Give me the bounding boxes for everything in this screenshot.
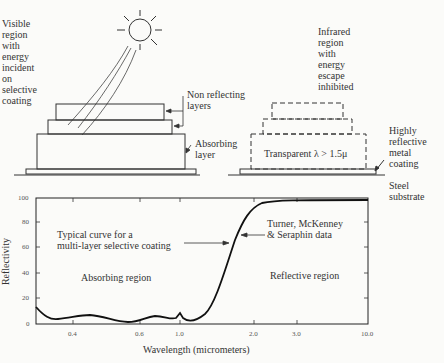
- absorbing-region-label: Absorbing region: [81, 272, 151, 283]
- metal-coating: [228, 160, 385, 175]
- x-tick-10.0: 10.0: [361, 330, 373, 338]
- x-tick-1.0: 1.0: [175, 330, 184, 338]
- light-rays: [68, 46, 136, 135]
- infrared-region-label: Infrared region with energy escape inhib…: [318, 26, 354, 92]
- non-reflecting-layers-label: Non reflecting layers: [187, 89, 245, 111]
- x-axis-label: Wavelength (micrometers): [143, 344, 250, 355]
- x-tick-3.0: 3.0: [292, 330, 301, 338]
- absorbing-layer-label: Absorbing layer: [195, 138, 237, 160]
- visible-region-label: Visible region with energy incident on s…: [2, 18, 37, 106]
- y-tick-0: 0: [26, 320, 30, 328]
- y-tick-80: 80: [22, 218, 29, 226]
- steel-substrate-label: Steel substrate: [389, 180, 425, 202]
- typical-curve-annotation: Typical curve for a multi-layer selectiv…: [57, 229, 171, 251]
- x-tick-0.4: 0.4: [68, 330, 77, 338]
- annotation-arrows: [184, 233, 265, 245]
- sun-icon: [117, 10, 162, 50]
- chart-frame: [36, 198, 368, 324]
- x-tick-2.0: 2.0: [249, 330, 258, 338]
- y-tick-20: 20: [22, 294, 29, 302]
- diagram-canvas: [0, 0, 444, 363]
- turner-data-annotation: Turner, McKenney & Seraphin data: [267, 218, 343, 240]
- x-tick-0.6: 0.6: [135, 330, 144, 338]
- transparent-stack: [251, 103, 366, 169]
- chart-ticks: [36, 198, 368, 324]
- y-tick-60: 60: [22, 243, 29, 251]
- reflective-region-label: Reflective region: [270, 270, 339, 281]
- y-tick-40: 40: [22, 269, 29, 277]
- metal-coating-label: Highly reflective metal coating: [389, 125, 427, 169]
- y-axis-label: Reflectivity: [0, 238, 11, 285]
- y-tick-100: 100: [18, 194, 29, 202]
- selective-coating-stack: [14, 104, 200, 175]
- transparent-label: Transparent λ > 1.5μ: [264, 148, 347, 159]
